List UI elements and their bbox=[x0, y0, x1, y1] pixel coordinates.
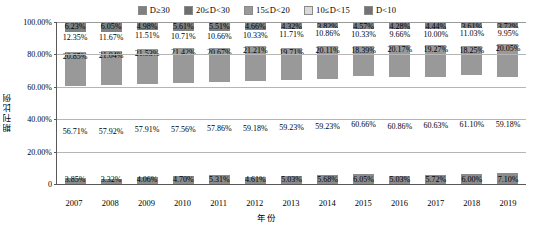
stacked-bar[interactable]: 4.57%10.33%18.39%60.66%6.05% bbox=[353, 22, 374, 184]
bar-segment[interactable]: 10.86% bbox=[317, 28, 338, 46]
bar-column[interactable]: 4.98%11.51%21.53%57.91%4.06% bbox=[129, 22, 165, 184]
bar-segment[interactable]: 11.71% bbox=[281, 29, 302, 48]
bar-column[interactable]: 3.82%10.86%20.11%59.23%5.68% bbox=[310, 22, 346, 184]
bar-segment[interactable]: 9.66% bbox=[389, 29, 410, 45]
bar-segment[interactable]: 6.05% bbox=[353, 174, 374, 184]
bar-segment[interactable]: 61.10% bbox=[461, 75, 482, 174]
bar-segment[interactable]: 4.57% bbox=[353, 22, 374, 29]
bar-segment[interactable]: 7.10% bbox=[497, 173, 518, 185]
stacked-bar[interactable]: 6.23%12.35%20.85%56.71%3.85% bbox=[65, 22, 86, 184]
bar-segment-value-label: 9.66% bbox=[389, 31, 410, 39]
x-axis-tick-label: 2010 bbox=[164, 198, 200, 208]
bar-segment[interactable]: 4.70% bbox=[173, 176, 194, 184]
bar-segment[interactable]: 5.68% bbox=[317, 175, 338, 184]
bar-segment[interactable]: 4.06% bbox=[137, 177, 158, 184]
legend-item[interactable]: 20≤D<30 bbox=[184, 6, 230, 15]
bar-segment[interactable]: 57.86% bbox=[209, 82, 230, 176]
bar-segment[interactable]: 11.51% bbox=[137, 30, 158, 49]
bar-segment-value-label: 10.86% bbox=[315, 30, 340, 38]
bar-segment[interactable]: 20.17% bbox=[389, 45, 410, 78]
bar-segment[interactable]: 20.67% bbox=[209, 48, 230, 81]
bar-segment[interactable]: 5.03% bbox=[389, 176, 410, 184]
bar-segment[interactable]: 11.03% bbox=[461, 28, 482, 46]
bar-segment[interactable]: 4.98% bbox=[137, 22, 158, 30]
bar-segment[interactable]: 5.51% bbox=[209, 22, 230, 31]
stacked-bar[interactable]: 4.44%10.00%19.27%60.63%5.72% bbox=[425, 22, 446, 184]
bar-column[interactable]: 5.61%10.71%21.42%57.56%4.70% bbox=[165, 22, 201, 184]
bar-segment[interactable]: 5.03% bbox=[281, 176, 302, 184]
bar-segment[interactable]: 4.44% bbox=[425, 22, 446, 29]
bar-segment[interactable]: 5.61% bbox=[173, 22, 194, 31]
bar-segment[interactable]: 4.61% bbox=[245, 177, 266, 184]
bar-segment[interactable]: 20.85% bbox=[65, 52, 86, 86]
stacked-bar[interactable]: 5.61%10.71%21.42%57.56%4.70% bbox=[173, 22, 194, 184]
y-axis-tick-label: 80.00% bbox=[27, 50, 52, 59]
bar-segment[interactable]: 59.23% bbox=[317, 79, 338, 175]
bar-segment[interactable]: 5.72% bbox=[425, 175, 446, 184]
bar-segment[interactable]: 60.66% bbox=[353, 76, 374, 174]
stacked-bar[interactable]: 3.72%9.95%20.05%59.18%7.10% bbox=[497, 22, 518, 184]
bar-segment[interactable]: 5.31% bbox=[209, 175, 230, 184]
bar-segment[interactable]: 12.35% bbox=[65, 32, 86, 52]
stacked-bar[interactable]: 3.61%11.03%18.25%61.10%6.00% bbox=[461, 22, 482, 184]
bar-segment[interactable]: 10.00% bbox=[425, 29, 446, 45]
bar-segment[interactable]: 4.28% bbox=[389, 22, 410, 29]
bar-segment[interactable]: 60.86% bbox=[389, 77, 410, 176]
bar-segment[interactable]: 6.23% bbox=[65, 22, 86, 32]
bar-segment[interactable]: 57.91% bbox=[137, 84, 158, 178]
bar-segment[interactable]: 59.18% bbox=[497, 77, 518, 173]
bar-segment-value-label: 20.05% bbox=[496, 45, 521, 53]
bar-segment[interactable]: 4.66% bbox=[245, 22, 266, 30]
bar-segment[interactable]: 19.27% bbox=[425, 45, 446, 76]
bar-segment[interactable]: 57.92% bbox=[101, 85, 122, 179]
bar-column[interactable]: 3.72%9.95%20.05%59.18%7.10% bbox=[490, 22, 526, 184]
bar-segment[interactable]: 60.63% bbox=[425, 77, 446, 175]
stacked-bar[interactable]: 4.98%11.51%21.53%57.91%4.06% bbox=[137, 22, 158, 184]
stacked-bar[interactable]: 6.05%11.67%21.04%57.92%3.32% bbox=[101, 22, 122, 184]
bar-segment[interactable]: 57.56% bbox=[173, 83, 194, 176]
bar-segment-value-label: 59.23% bbox=[315, 123, 340, 131]
legend-item[interactable]: 15≤D<20 bbox=[244, 6, 290, 15]
bar-segment[interactable]: 6.00% bbox=[461, 174, 482, 184]
legend-item[interactable]: D<10 bbox=[364, 6, 396, 15]
bar-segment[interactable]: 20.05% bbox=[497, 44, 518, 76]
bar-segment[interactable]: 18.39% bbox=[353, 46, 374, 76]
bar-segment[interactable]: 56.71% bbox=[65, 86, 86, 178]
bar-segment[interactable]: 10.66% bbox=[209, 31, 230, 48]
bar-segment[interactable]: 9.95% bbox=[497, 28, 518, 44]
bar-column[interactable]: 6.05%11.67%21.04%57.92%3.32% bbox=[93, 22, 129, 184]
bar-column[interactable]: 4.44%10.00%19.27%60.63%5.72% bbox=[418, 22, 454, 184]
bar-segment-value-label: 57.91% bbox=[135, 126, 160, 134]
bar-segment[interactable]: 4.32% bbox=[281, 22, 302, 29]
bar-segment[interactable]: 10.71% bbox=[173, 31, 194, 48]
bar-column[interactable]: 4.32%11.71%19.71%59.23%5.03% bbox=[273, 22, 309, 184]
bar-segment[interactable]: 59.23% bbox=[281, 80, 302, 176]
y-axis-tick-mark bbox=[54, 54, 57, 55]
bar-column[interactable]: 6.23%12.35%20.85%56.71%3.85% bbox=[57, 22, 93, 184]
bar-column[interactable]: 4.57%10.33%18.39%60.66%6.05% bbox=[346, 22, 382, 184]
bar-segment[interactable]: 20.11% bbox=[317, 46, 338, 79]
bar-segment[interactable]: 11.67% bbox=[101, 32, 122, 51]
legend-item[interactable]: 10≤D<15 bbox=[304, 6, 350, 15]
bar-segment[interactable]: 19.71% bbox=[281, 48, 302, 80]
bar-column[interactable]: 4.66%10.33%21.21%59.18%4.61% bbox=[237, 22, 273, 184]
stacked-bar[interactable]: 4.28%9.66%20.17%60.86%5.03% bbox=[389, 22, 410, 184]
bar-segment[interactable]: 21.21% bbox=[245, 46, 266, 80]
bar-column[interactable]: 4.28%9.66%20.17%60.86%5.03% bbox=[382, 22, 418, 184]
bar-segment-value-label: 59.18% bbox=[243, 125, 268, 133]
bar-column[interactable]: 5.51%10.66%20.67%57.86%5.31% bbox=[201, 22, 237, 184]
bar-segment[interactable]: 21.04% bbox=[101, 51, 122, 85]
stacked-bar[interactable]: 4.66%10.33%21.21%59.18%4.61% bbox=[245, 22, 266, 184]
x-axis-tick-label: 2018 bbox=[454, 198, 490, 208]
bar-segment[interactable]: 10.33% bbox=[353, 29, 374, 46]
stacked-bar[interactable]: 4.32%11.71%19.71%59.23%5.03% bbox=[281, 22, 302, 184]
bar-column[interactable]: 3.61%11.03%18.25%61.10%6.00% bbox=[454, 22, 490, 184]
bar-segment[interactable]: 6.05% bbox=[101, 22, 122, 32]
legend-swatch-icon bbox=[304, 6, 313, 15]
legend-item[interactable]: D≥30 bbox=[138, 6, 170, 15]
bar-segment[interactable]: 10.33% bbox=[245, 30, 266, 47]
bar-segment[interactable]: 59.18% bbox=[245, 81, 266, 177]
stacked-bar[interactable]: 3.82%10.86%20.11%59.23%5.68% bbox=[317, 22, 338, 184]
bar-segment[interactable]: 18.25% bbox=[461, 46, 482, 76]
stacked-bar[interactable]: 5.51%10.66%20.67%57.86%5.31% bbox=[209, 22, 230, 184]
